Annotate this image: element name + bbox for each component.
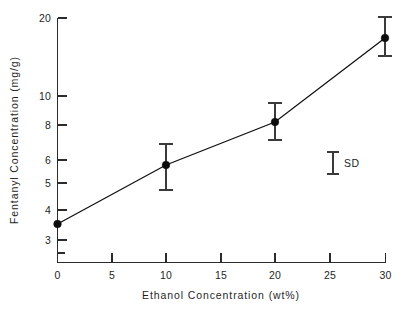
- y-tick-label-4: 4: [45, 204, 51, 216]
- x-axis-title: Ethanol Concentration (wt%): [142, 289, 300, 301]
- chart-plot-area: 20 10 8 6 5 4 3 0 5 10 15 20 25 30: [0, 0, 411, 309]
- y-axis-tick-labels: 20 10 8 6 5 4 3: [39, 12, 51, 246]
- data-point-x20[interactable]: [271, 118, 279, 126]
- x-tick-label-30: 30: [379, 269, 391, 281]
- y-tick-label-20: 20: [39, 12, 51, 24]
- y-tick-label-3: 3: [45, 234, 51, 246]
- axes-group: [58, 18, 386, 263]
- x-tick-label-5: 5: [109, 269, 115, 281]
- y-tick-label-6: 6: [45, 154, 51, 166]
- x-tick-label-25: 25: [324, 269, 336, 281]
- x-axis-tick-labels: 0 5 10 15 20 25 30: [54, 269, 391, 281]
- sd-annotation: SD: [327, 152, 359, 174]
- x-tick-label-10: 10: [160, 269, 172, 281]
- data-point-x0[interactable]: [54, 220, 62, 228]
- data-point-x10[interactable]: [162, 161, 170, 169]
- y-tick-label-10: 10: [39, 90, 51, 102]
- y-axis-title: Fentanyl Concentration (mg/g): [8, 56, 20, 224]
- x-tick-label-20: 20: [269, 269, 281, 281]
- sd-label: SD: [344, 157, 359, 169]
- data-point-x30[interactable]: [381, 34, 389, 42]
- x-tick-label-0: 0: [54, 269, 60, 281]
- y-tick-label-8: 8: [45, 119, 51, 131]
- y-axis-ticks: [58, 18, 68, 253]
- y-tick-label-5: 5: [45, 177, 51, 189]
- chart-figure: 20 10 8 6 5 4 3 0 5 10 15 20 25 30: [0, 0, 411, 309]
- x-axis-ticks: [58, 253, 386, 263]
- x-tick-label-15: 15: [215, 269, 227, 281]
- data-series-line: [58, 38, 386, 224]
